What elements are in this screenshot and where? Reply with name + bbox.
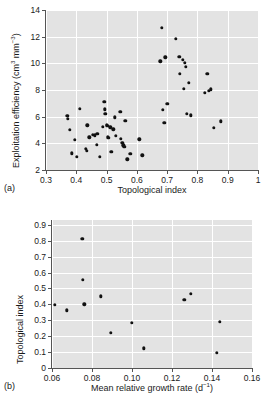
x-axis-tick <box>212 369 213 372</box>
y-axis-tick <box>48 273 51 274</box>
data-point <box>96 132 99 135</box>
data-point <box>66 117 69 120</box>
data-point <box>99 295 102 298</box>
x-axis-tick-label: 0.5 <box>101 176 113 185</box>
gridline-vertical <box>212 220 213 368</box>
gridline-vertical <box>52 220 53 368</box>
gridline-vertical <box>92 220 93 368</box>
data-point <box>118 110 121 113</box>
gridline-horizontal <box>52 273 252 274</box>
data-point <box>178 55 181 58</box>
x-axis-tick-label: 0.6 <box>131 176 143 185</box>
gridline-vertical <box>172 220 173 368</box>
panel-a-plot-area <box>46 10 258 170</box>
gridline-horizontal <box>46 90 258 91</box>
y-axis-tick <box>48 241 51 242</box>
data-point <box>218 320 221 323</box>
x-axis-tick-label: 0.06 <box>44 374 61 383</box>
data-point <box>95 143 98 146</box>
y-axis-tick <box>48 368 51 369</box>
gridline-vertical <box>258 10 259 170</box>
x-axis-tick <box>132 369 133 372</box>
gridline-horizontal <box>46 63 258 64</box>
y-axis-tick-label: 0.9 <box>12 221 46 230</box>
data-point <box>185 112 188 115</box>
y-axis-tick <box>42 63 45 64</box>
x-axis-tick-label: 0.8 <box>192 176 204 185</box>
data-point <box>161 108 164 111</box>
gridline-horizontal <box>46 117 258 118</box>
x-axis-tick-label: 0.08 <box>84 374 101 383</box>
data-point <box>81 278 84 281</box>
panel-b-plot-area <box>52 220 252 368</box>
data-point <box>75 155 78 158</box>
x-axis-tick <box>76 171 77 174</box>
data-point <box>212 126 215 129</box>
panel-b-label: (b) <box>4 382 15 391</box>
y-axis-line <box>45 10 46 171</box>
x-axis-tick <box>258 171 259 174</box>
panel-b: 00.10.20.30.40.50.60.70.80.90.060.080.10… <box>0 198 268 395</box>
y-axis-tick <box>48 225 51 226</box>
y-axis-tick-label: 0.6 <box>12 268 46 277</box>
data-point <box>124 119 127 122</box>
gridline-horizontal <box>46 143 258 144</box>
panel-a-label: (a) <box>4 184 15 193</box>
x-axis-tick <box>107 171 108 174</box>
gridline-horizontal <box>52 288 252 289</box>
x-axis-tick-label: 0.10 <box>124 374 141 383</box>
data-point <box>70 152 73 155</box>
x-axis-tick-label: 0.7 <box>161 176 173 185</box>
data-point <box>203 91 206 94</box>
y-axis-tick <box>42 170 45 171</box>
data-point <box>205 72 208 75</box>
x-axis-tick <box>137 171 138 174</box>
x-axis-tick <box>197 171 198 174</box>
data-point <box>101 125 104 128</box>
data-point <box>165 102 168 105</box>
y-axis-tick-label: 14 <box>6 6 40 15</box>
data-point <box>98 155 101 158</box>
panel-b-x-axis-title: Mean relative growth rate (d−1) <box>91 384 213 393</box>
y-axis-tick <box>48 288 51 289</box>
data-point <box>112 128 115 131</box>
gridline-horizontal <box>52 336 252 337</box>
x-axis-tick-label: 0.9 <box>222 176 234 185</box>
gridline-horizontal <box>46 37 258 38</box>
gridline-horizontal <box>52 241 252 242</box>
data-point <box>78 107 81 110</box>
data-point <box>114 134 117 137</box>
data-point <box>162 121 165 124</box>
gridline-vertical <box>252 220 253 368</box>
data-point <box>119 137 122 140</box>
y-axis-tick <box>48 257 51 258</box>
data-point <box>141 154 144 157</box>
data-point <box>174 37 177 40</box>
gridline-horizontal <box>52 257 252 258</box>
data-point <box>85 149 88 152</box>
x-axis-tick-label: 0.3 <box>40 176 52 185</box>
x-axis-tick <box>172 369 173 372</box>
data-point <box>219 120 222 123</box>
data-point <box>113 116 116 119</box>
y-axis-tick <box>48 352 51 353</box>
y-axis-tick-label: 0 <box>12 364 46 373</box>
y-axis-tick <box>42 143 45 144</box>
y-axis-tick <box>42 90 45 91</box>
scatter-figure: 24681012140.30.40.50.60.70.80.91 Exploit… <box>0 0 268 395</box>
y-axis-tick <box>48 304 51 305</box>
panel-a-x-axis-title: Topological index <box>117 186 186 195</box>
panel-a-y-axis-title: Exploitation efficiency (cm3 mm−3) <box>12 33 21 168</box>
x-axis-tick-label: 0.16 <box>244 374 261 383</box>
x-axis-tick <box>52 369 53 372</box>
y-axis-tick <box>48 336 51 337</box>
x-axis-tick <box>46 171 47 174</box>
data-point <box>189 292 192 295</box>
y-axis-line <box>51 220 52 369</box>
data-point <box>86 124 89 127</box>
gridline-vertical <box>132 220 133 368</box>
y-axis-tick <box>42 117 45 118</box>
x-axis-tick-label: 0.12 <box>164 374 181 383</box>
data-point <box>65 309 68 312</box>
data-point <box>109 150 112 153</box>
